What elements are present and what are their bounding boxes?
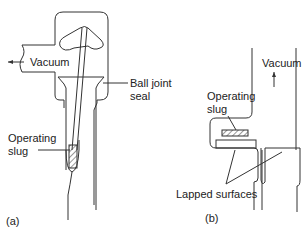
figure-a <box>20 12 108 220</box>
label-lapped-surfaces: Lapped surfaces <box>176 188 258 200</box>
label-ball-joint-line1: Ball joint <box>130 77 172 89</box>
panel-label-b: (b) <box>205 212 218 224</box>
label-slug-b-line1: Operating <box>207 90 255 102</box>
panel-label-a: (a) <box>6 215 19 227</box>
operating-slug-a <box>69 145 77 168</box>
label-vacuum-b: Vacuum <box>262 57 302 69</box>
diagram-canvas: Vacuum Ball joint seal Operating slug (a… <box>0 0 305 235</box>
label-slug-b-line2: slug <box>207 103 227 115</box>
housing-outline <box>22 12 108 205</box>
label-slug-a-line2: slug <box>8 145 28 157</box>
label-ball-joint-line2: seal <box>130 90 150 102</box>
label-slug-a-line1: Operating <box>8 132 56 144</box>
operating-slug-b <box>222 130 248 136</box>
label-vacuum-a: Vacuum <box>30 56 70 68</box>
